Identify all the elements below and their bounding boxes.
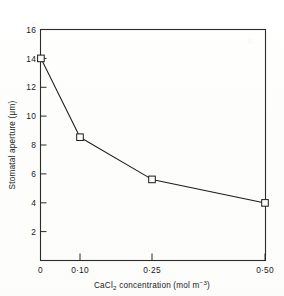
y-axis-title: Stomatal aperture (μm) [8,101,17,190]
y-axis-title-group: Stomatal aperture (μm) [8,101,17,190]
x-axis-title: CaCl2 concentration (mol m−3) [94,279,210,291]
y-tick-label-8: 8 [31,140,36,150]
x-tick-label-0-25: 0·25 [143,265,161,275]
x-axis-title-mid: concentration (mol m [117,281,200,290]
x-axis-tick-labels: 0 0·10 0·25 0·50 [38,265,274,275]
y-tick-label-6: 6 [31,169,36,179]
x-axis-title-tail: ) [207,281,210,290]
x-axis-ticks [80,254,265,261]
y-tick-label-4: 4 [31,198,36,208]
x-axis-title-group: CaCl2 concentration (mol m−3) [94,279,210,291]
y-axis-tick-labels: 16 14 12 10 8 6 4 2 [26,25,36,237]
axes-box [41,30,266,261]
data-point-marker-3 [262,200,269,207]
data-series-stomatal-aperture [38,55,269,206]
y-tick-label-2: 2 [31,227,36,237]
plot-frame [41,30,266,261]
y-tick-label-12: 12 [26,82,36,92]
x-tick-label-0-10: 0·10 [71,265,89,275]
data-point-marker-1 [77,134,84,141]
data-point-marker-2 [149,176,156,183]
x-axis-title-lead: CaCl [94,281,113,290]
data-point-marker-0 [38,55,45,62]
y-tick-label-16: 16 [26,25,36,35]
x-tick-label-0: 0 [38,265,43,275]
x-tick-label-0-50: 0·50 [256,265,274,275]
figure-container: 16 14 12 10 8 6 4 2 0 0·10 0·25 0·50 [0,0,284,296]
y-tick-label-14: 14 [26,54,36,64]
chart-plot: 16 14 12 10 8 6 4 2 0 0·10 0·25 0·50 [0,0,284,296]
y-tick-label-10: 10 [26,111,36,121]
